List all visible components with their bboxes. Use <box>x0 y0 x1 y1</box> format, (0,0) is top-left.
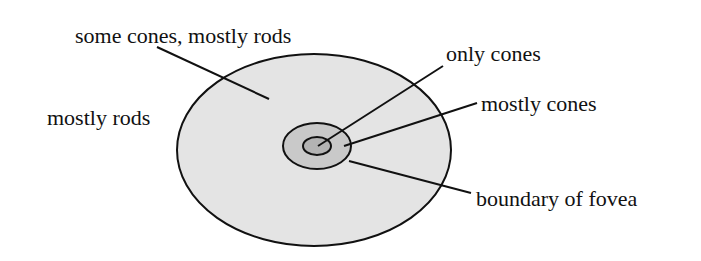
regions <box>177 54 451 246</box>
label-mostly-rods: mostly rods <box>47 105 150 130</box>
label-only-cones: only cones <box>446 41 541 66</box>
label-mostly-cones: mostly cones <box>481 91 597 116</box>
label-some-cones-mostly-rods: some cones, mostly rods <box>75 23 291 48</box>
label-boundary-of-fovea: boundary of fovea <box>476 186 638 211</box>
retina-diagram: some cones, mostly rods mostly rods only… <box>0 0 701 261</box>
